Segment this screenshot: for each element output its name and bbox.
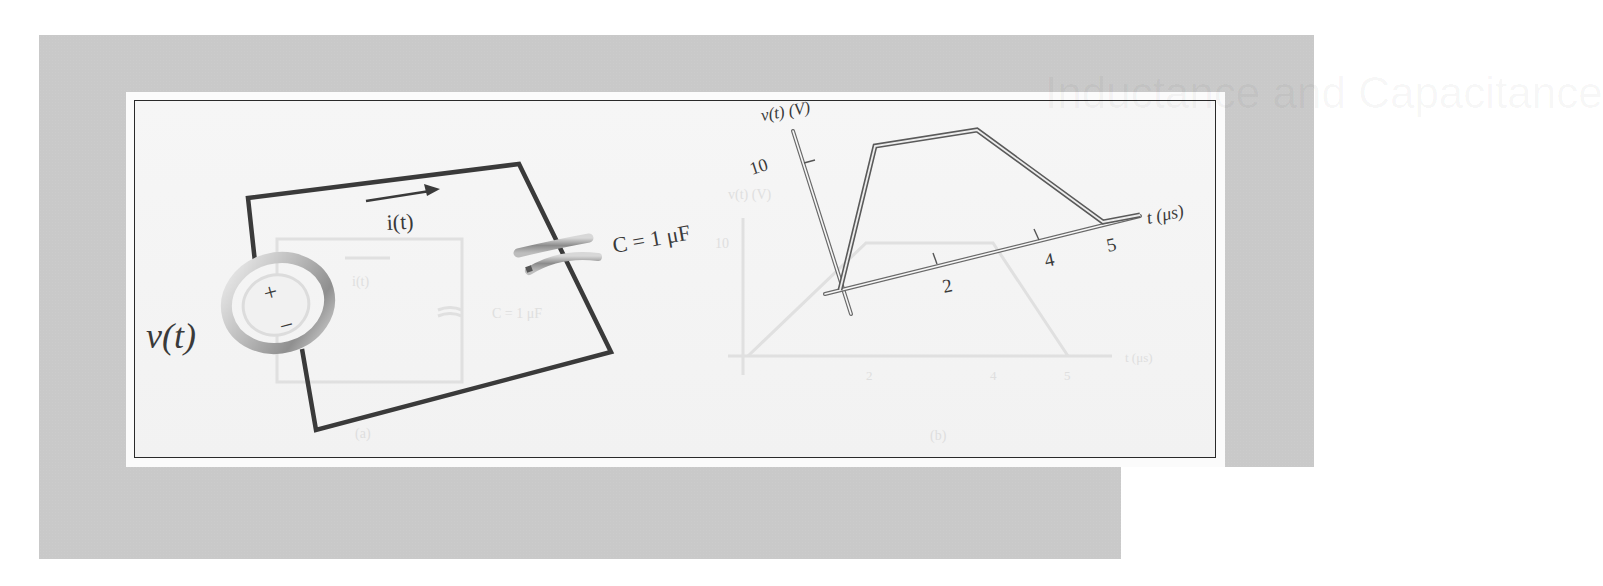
- ghost-capacitor-icon: [438, 308, 462, 317]
- current-label: i(t): [386, 209, 414, 235]
- ghost-y-axis-label: v(t) (V): [728, 187, 771, 203]
- x-tick-label-4: 4: [1042, 248, 1056, 271]
- current-arrow-icon: [366, 184, 440, 201]
- ghost-x-tick-2: 2: [866, 368, 873, 383]
- ghost-current-label: i(t): [352, 274, 369, 290]
- y-axis-label: v(t) (V): [759, 98, 811, 125]
- ghost-waveform: [748, 243, 1068, 356]
- ghost-x-axis-label: t (μs): [1125, 350, 1153, 365]
- ghost-x-tick-5: 5: [1064, 368, 1071, 383]
- capacitor-label: C = 1 μF: [611, 220, 693, 258]
- waveform-chart: v(t) (V) 10 2 4 5 t (μs): [747, 98, 1186, 314]
- ghost-caption-b: (b): [930, 428, 947, 444]
- ghost-y-tick-10: 10: [715, 236, 729, 251]
- x-axis-label: t (μs): [1145, 201, 1186, 229]
- x-tick-label-2: 2: [940, 274, 954, 297]
- capacitor-icon: [518, 238, 598, 273]
- circuit-diagram: i(t) + − v(t) C = 1 μF: [146, 164, 692, 430]
- source-voltage-label: v(t): [146, 316, 196, 356]
- x-tick-label-5: 5: [1104, 233, 1118, 256]
- waveform-line: [840, 130, 1140, 290]
- y-tick-label-10: 10: [747, 154, 770, 179]
- ghost-capacitor-label: C = 1 μF: [492, 306, 542, 321]
- ghost-x-tick-4: 4: [990, 368, 997, 383]
- x-axis: [825, 216, 1140, 294]
- ghost-caption-a: (a): [355, 426, 371, 442]
